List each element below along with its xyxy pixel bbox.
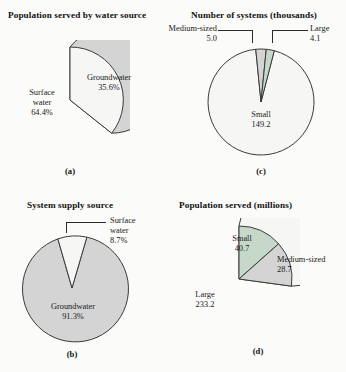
panel-d-small-name: Small bbox=[219, 234, 265, 244]
panel-a-groundwater-value: 35.6% bbox=[76, 83, 142, 93]
panel-b-label-groundwater: Groundwater 91.3% bbox=[35, 302, 111, 322]
panel-a-groundwater-name: Groundwater bbox=[76, 73, 142, 83]
panel-c-leader-large-horizontal bbox=[272, 30, 308, 31]
panel-c-caption: (c) bbox=[236, 166, 286, 176]
panel-b: System supply source Surface water 8.7% … bbox=[0, 186, 173, 372]
panel-d-medium-value: 28.7 bbox=[277, 265, 345, 275]
panel-c-pie bbox=[201, 42, 321, 162]
panel-d-small-value: 40.7 bbox=[219, 244, 265, 254]
panel-c-small-value: 149.2 bbox=[230, 120, 292, 130]
panel-a-caption: (a) bbox=[45, 166, 95, 176]
panel-d-large-value: 233.2 bbox=[179, 300, 231, 310]
panel-b-surface-name-1: Surface bbox=[110, 216, 158, 226]
panel-a: Population served by water source Ground… bbox=[0, 0, 173, 186]
panel-b-title: System supply source bbox=[27, 200, 113, 210]
panel-d-label-medium: Medium-sized 28.7 bbox=[277, 255, 345, 275]
panel-b-groundwater-name: Groundwater bbox=[35, 302, 111, 312]
panel-b-groundwater-value: 91.3% bbox=[35, 312, 111, 322]
panel-b-caption: (b) bbox=[47, 349, 97, 359]
panel-c-title: Number of systems (thousands) bbox=[191, 10, 317, 20]
panel-c-large-name: Large bbox=[310, 24, 344, 34]
panel-b-pie bbox=[12, 228, 132, 348]
panel-c-medium-name: Medium-sized bbox=[165, 24, 217, 34]
panel-c: Number of systems (thousands) Medium-siz… bbox=[173, 0, 346, 186]
panel-a-label-groundwater: Groundwater 35.6% bbox=[76, 73, 142, 93]
panel-d-label-small: Small 40.7 bbox=[219, 234, 265, 254]
panel-b-leader-surface-horizontal bbox=[66, 222, 106, 223]
panel-d-medium-name: Medium-sized bbox=[277, 255, 345, 265]
panel-c-label-small: Small 149.2 bbox=[230, 110, 292, 130]
panel-a-label-surface-water: Surface water 64.4% bbox=[17, 88, 67, 119]
panel-a-surface-name-1: Surface bbox=[17, 88, 67, 98]
panel-d-large-name: Large bbox=[179, 290, 231, 300]
panel-d-caption: (d) bbox=[233, 346, 283, 356]
panel-c-leader-medium-horizontal bbox=[218, 30, 252, 31]
panel-d-title: Population served (millions) bbox=[179, 200, 292, 210]
panel-a-surface-name-2: water bbox=[17, 98, 67, 108]
panel-a-title: Population served by water source bbox=[8, 10, 146, 20]
panel-d-label-large: Large 233.2 bbox=[179, 290, 231, 310]
panel-d: Population served (millions) Small 40.7 … bbox=[173, 186, 346, 372]
panel-c-small-name: Small bbox=[230, 110, 292, 120]
panel-a-surface-value: 64.4% bbox=[17, 108, 67, 118]
